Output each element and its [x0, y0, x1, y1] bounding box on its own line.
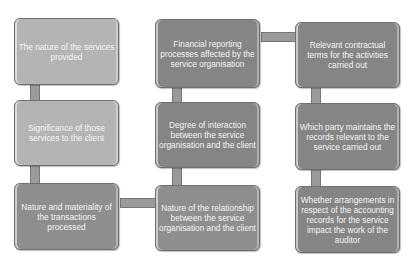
box-text: Financial reporting processes affected b… [159, 39, 256, 69]
box-which-party-maintains-records: Which party maintains the records releva… [295, 103, 400, 170]
box-text: Significance of those services to the cl… [18, 123, 115, 143]
connector-c1r3-c2r3 [120, 198, 156, 208]
box-financial-reporting-processes: Financial reporting processes affected b… [155, 19, 260, 88]
connector-c2-r3-r2 [172, 167, 182, 186]
box-degree-of-interaction: Degree of interaction between the servic… [155, 102, 260, 168]
connector-c1-r2-r3 [30, 165, 40, 184]
box-text: Nature and materiality of the transactio… [18, 202, 115, 232]
box-relevant-contractual-terms: Relevant contractual terms for the activ… [295, 22, 400, 88]
connector-c3-r1-r2 [311, 87, 321, 104]
box-text: Degree of interaction between the servic… [159, 120, 256, 150]
box-text: Whether arrangements in respect of the a… [299, 195, 396, 245]
connector-c3-r2-r3 [311, 169, 321, 187]
box-nature-of-services: The nature of the services provided [14, 18, 119, 85]
box-text: Relevant contractual terms for the activ… [299, 40, 396, 70]
connector-c1-r1-r2 [30, 84, 40, 101]
box-text: Which party maintains the records releva… [299, 122, 396, 152]
box-accounting-arrangements-impact: Whether arrangements in respect of the a… [295, 186, 400, 253]
box-nature-materiality-transactions: Nature and materiality of the transactio… [14, 183, 119, 250]
box-nature-of-relationship: Nature of the relationship between the s… [155, 185, 260, 251]
box-text: The nature of the services provided [18, 42, 115, 62]
connector-c2r1-c3r1 [261, 32, 296, 42]
connector-c2-r2-r1 [172, 87, 182, 103]
box-significance-of-services: Significance of those services to the cl… [14, 100, 119, 166]
box-text: Nature of the relationship between the s… [159, 203, 256, 233]
